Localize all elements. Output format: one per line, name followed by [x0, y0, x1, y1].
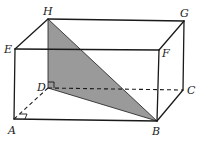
label-b: B: [151, 125, 160, 138]
edge-gc: [183, 21, 184, 90]
label-a: A: [7, 124, 16, 137]
edge-ef: [15, 49, 159, 50]
edge-bc: [157, 90, 183, 121]
label-d: D: [36, 81, 46, 94]
prism-diagram: H G E F D C A B: [0, 0, 205, 145]
right-angle-mark-a: [20, 114, 27, 119]
edge-fg: [159, 21, 184, 50]
edge-he: [15, 19, 48, 49]
edge-fb: [157, 50, 159, 121]
label-f: F: [161, 47, 170, 60]
edge-ea: [14, 49, 15, 119]
edge-ab: [14, 119, 157, 121]
label-c: C: [187, 84, 196, 97]
label-g: G: [180, 7, 189, 20]
label-h: H: [42, 5, 53, 18]
label-e: E: [3, 43, 12, 56]
shaded-triangle-hdb: [48, 19, 157, 121]
edge-gh: [48, 19, 184, 21]
